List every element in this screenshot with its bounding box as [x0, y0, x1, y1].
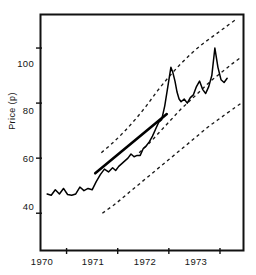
upper-band-line	[101, 19, 236, 153]
y-tick-label-80: 80	[8, 105, 34, 116]
x-tick-label-1973: 1973	[176, 256, 216, 267]
y-tick-label-60: 60	[8, 153, 34, 164]
x-tick-label-1970: 1970	[22, 256, 62, 267]
x-tick-label-1971: 1971	[73, 256, 113, 267]
y-tick-label-100: 100	[8, 58, 34, 69]
price-series-line	[47, 48, 227, 195]
y-tick-label-40: 40	[8, 201, 34, 212]
x-tick-label-1972: 1972	[125, 256, 165, 267]
chart-canvas	[0, 0, 256, 275]
trend-segment-line	[95, 114, 167, 173]
plot-frame	[41, 15, 244, 251]
middle-band-line	[139, 58, 240, 153]
figure: Price (p) 100 80 60 40 1970 1971 1972 19…	[0, 0, 256, 275]
